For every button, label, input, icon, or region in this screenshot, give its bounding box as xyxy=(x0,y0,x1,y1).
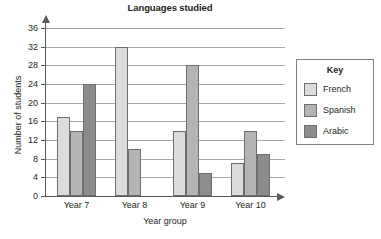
y-axis-arrow-icon xyxy=(42,15,50,23)
legend-item-french: French xyxy=(304,82,374,98)
y-axis-tick-label: 8 xyxy=(16,155,38,164)
bar-year-10-spanish xyxy=(244,131,257,196)
legend-item-label: French xyxy=(323,84,351,94)
x-axis-tick-label: Year 8 xyxy=(107,200,163,210)
y-axis-tick xyxy=(41,140,46,141)
y-axis-tick-label: 28 xyxy=(16,61,38,70)
legend-item-label: Spanish xyxy=(323,105,356,115)
x-axis-tick-label: Year 7 xyxy=(49,200,105,210)
x-axis-line xyxy=(45,196,278,197)
gridline xyxy=(45,121,285,122)
y-axis-tick-label: 36 xyxy=(16,24,38,33)
x-axis-tick-label: Year 9 xyxy=(165,200,221,210)
y-axis-tick-label: 16 xyxy=(16,117,38,126)
y-axis-tick-label: 32 xyxy=(16,43,38,52)
y-axis-tick-label: 0 xyxy=(16,192,38,201)
gridline xyxy=(45,103,285,104)
gridline xyxy=(45,65,285,66)
bar-year-7-arabic xyxy=(83,84,96,196)
bar-year-9-french xyxy=(173,131,186,196)
y-axis-tick xyxy=(41,103,46,104)
bar-year-8-spanish xyxy=(128,149,141,196)
bar-year-10-arabic xyxy=(257,154,270,196)
bar-year-7-french xyxy=(57,117,70,196)
plot-area xyxy=(45,28,285,196)
y-axis-tick xyxy=(41,159,46,160)
gridline xyxy=(45,47,285,48)
legend-item-spanish: Spanish xyxy=(304,103,374,119)
bar-year-8-french xyxy=(115,47,128,196)
y-axis-tick xyxy=(41,47,46,48)
gridline xyxy=(45,84,285,85)
y-axis-tick-label: 20 xyxy=(16,99,38,108)
y-axis-tick-label: 24 xyxy=(16,80,38,89)
y-axis-tick-label: 12 xyxy=(16,136,38,145)
gridline xyxy=(45,28,285,29)
y-axis-tick xyxy=(41,177,46,178)
legend-box: Key FrenchSpanishArabic xyxy=(296,59,374,145)
x-axis-tick-label: Year 10 xyxy=(223,200,279,210)
legend-swatch-icon xyxy=(304,83,317,96)
y-axis-tick xyxy=(41,28,46,29)
y-axis-tick xyxy=(41,84,46,85)
bar-year-9-arabic xyxy=(199,173,212,196)
y-axis-tick xyxy=(41,196,46,197)
bar-chart-figure: Languages studied Number of students 048… xyxy=(0,0,381,239)
legend-swatch-icon xyxy=(304,125,317,138)
y-axis-tick xyxy=(41,121,46,122)
y-axis-tick-labels: 04812162024283236 xyxy=(10,0,38,239)
legend-swatch-icon xyxy=(304,104,317,117)
x-axis-title: Year group xyxy=(45,216,285,226)
y-axis-tick-label: 4 xyxy=(16,173,38,182)
legend-title: Key xyxy=(297,65,373,75)
bar-year-7-spanish xyxy=(70,131,83,196)
chart-title: Languages studied xyxy=(60,2,280,13)
bar-year-10-french xyxy=(231,163,244,196)
bar-year-9-spanish xyxy=(186,65,199,196)
y-axis-tick xyxy=(41,65,46,66)
legend-item-label: Arabic xyxy=(323,126,349,136)
legend-item-arabic: Arabic xyxy=(304,124,374,140)
